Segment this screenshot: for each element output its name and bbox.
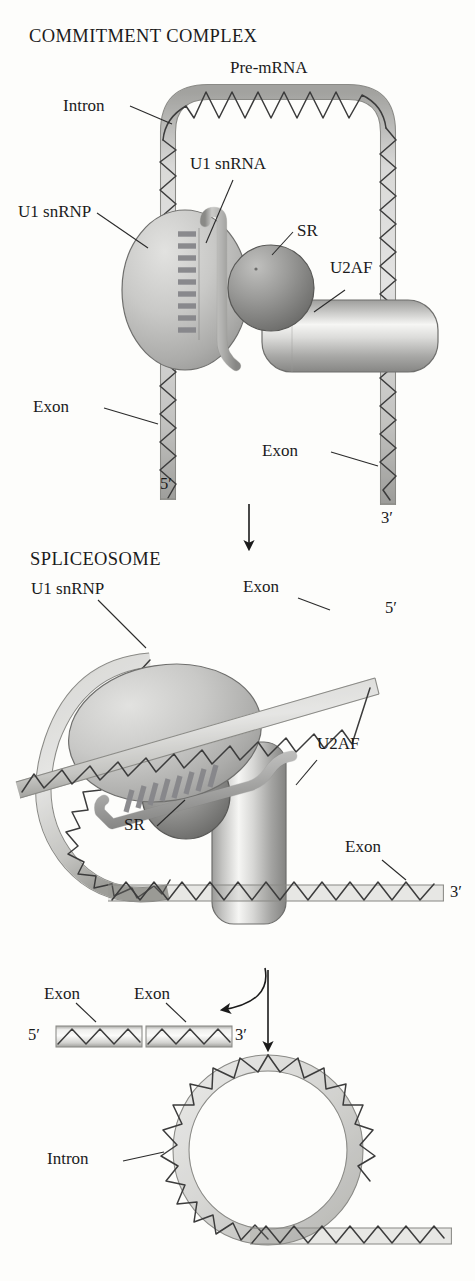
lariat-tail [250, 1226, 452, 1244]
label-3prime-commitment: 3′ [381, 510, 393, 527]
label-exon-left-commitment: Exon [33, 398, 69, 415]
label-intron-commitment: Intron [63, 97, 105, 114]
leader-exon-left [104, 408, 158, 424]
rna-end-caps [161, 499, 396, 504]
label-exon-bottom-spliceosome: Exon [345, 838, 381, 855]
leader-exon-right [331, 452, 378, 466]
label-exon-right-commitment: Exon [262, 442, 298, 459]
figure-canvas: COMMITMENT COMPLEX Pre-mRNA Intron U1 sn… [0, 0, 475, 1281]
label-u1-snrnp-spliceosome: U1 snRNP [31, 580, 104, 597]
spliced-exon-left [56, 1026, 142, 1047]
spliceosome-exon-3prime [108, 882, 444, 901]
label-u2af-spliceosome: U2AF [317, 735, 360, 752]
label-5prime-spliceosome: 5′ [385, 600, 397, 617]
label-3prime-product: 3′ [235, 1027, 247, 1044]
lariat-intron-graphic [123, 1055, 452, 1245]
leader-exon-product-left [76, 1003, 96, 1022]
leader-exon-bottom [382, 860, 406, 880]
label-u1-snrna-commitment: U1 snRNA [190, 155, 266, 172]
spliced-exon-right [146, 1026, 232, 1047]
spliced-exons-graphic [56, 1003, 232, 1047]
splicing-diagram-artwork [0, 0, 475, 1281]
commitment-complex-title: COMMITMENT COMPLEX [29, 27, 257, 46]
label-sr-spliceosome: SR [124, 816, 145, 833]
label-u1-snrnp-commitment: U1 snRNP [18, 203, 91, 220]
label-pre-mrna: Pre-mRNA [230, 59, 307, 76]
label-u2af-commitment: U2AF [330, 259, 373, 276]
spliceosome-graphic [16, 598, 444, 924]
leader-exon-product-right [166, 1003, 186, 1022]
label-3prime-spliceosome: 3′ [450, 884, 462, 901]
label-sr-commitment: SR [297, 222, 318, 239]
arrow-spliceosome-to-products [222, 968, 266, 1010]
label-intron-lariat: Intron [47, 1150, 89, 1167]
sr-sphere-commitment [228, 245, 314, 331]
spliced-exon-leader-lines [76, 1003, 186, 1022]
leader-u1-snrnp [97, 213, 148, 248]
leader-u1-snrnp-2 [98, 600, 146, 648]
label-5prime-commitment: 5′ [160, 476, 172, 493]
label-exon-product-right: Exon [134, 985, 170, 1002]
label-exon-product-left: Exon [44, 985, 80, 1002]
spliceosome-title: SPLICEOSOME [30, 550, 161, 569]
label-5prime-product: 5′ [28, 1027, 40, 1044]
label-exon-top-spliceosome: Exon [243, 578, 279, 595]
leader-intron-lariat [123, 1152, 164, 1161]
leader-exon-top [298, 598, 330, 610]
leader-u2af-2 [296, 760, 317, 785]
